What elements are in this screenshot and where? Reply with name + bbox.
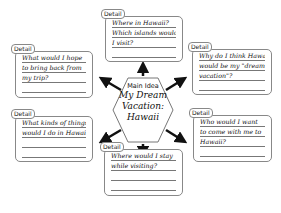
detail-line: Why do I think Hawaii: [199, 51, 265, 61]
detail-box-top-left: Detail What would I hope to bring back f…: [15, 51, 93, 98]
main-idea-label: Main Idea: [113, 82, 173, 90]
detail-line: Hawaii?: [200, 137, 265, 147]
detail-line: I visit?: [112, 38, 176, 48]
detail-line: Where would I stay: [111, 151, 176, 161]
detail-line: [22, 83, 86, 93]
detail-line: [200, 147, 265, 157]
main-idea-line-3: Hawaii: [113, 112, 173, 123]
detail-box-bottom-left: Detail What kinds of things would I do i…: [15, 116, 93, 162]
detail-line: vacation"?: [199, 71, 265, 81]
detail-line: [111, 181, 176, 191]
detail-box-top-right: Detail Why do I think Hawaii would be my…: [192, 49, 272, 95]
detail-box-bottom: Detail Where would I stay while visiting…: [104, 149, 183, 196]
detail-line: Where in Hawaii?: [112, 18, 176, 28]
detail-line: [22, 148, 86, 158]
detail-line: would I do in Hawaii?: [22, 128, 86, 138]
detail-line: [111, 171, 176, 181]
detail-line: Who would I want: [200, 117, 265, 127]
detail-line: my trip?: [22, 73, 86, 83]
detail-line: [112, 48, 176, 58]
detail-line: What would I hope: [22, 53, 86, 63]
detail-box-top: Detail Where in Hawaii? Which islands wo…: [105, 16, 183, 62]
detail-line: [199, 81, 265, 91]
detail-line: Which islands would: [112, 28, 176, 38]
main-idea-line-2: Vacation:: [113, 101, 173, 112]
main-idea-line-1: My Dream: [113, 90, 173, 101]
main-idea: Main Idea My Dream Vacation: Hawaii: [113, 82, 173, 123]
detail-line: while visiting?: [111, 161, 176, 171]
detail-line: to bring back from: [22, 63, 86, 73]
detail-line: What kinds of things: [22, 118, 86, 128]
detail-line: to come with me to: [200, 127, 265, 137]
detail-line: [22, 138, 86, 148]
detail-box-bottom-right: Detail Who would I want to come with me …: [193, 115, 272, 162]
detail-line: would be my "dream: [199, 61, 265, 71]
